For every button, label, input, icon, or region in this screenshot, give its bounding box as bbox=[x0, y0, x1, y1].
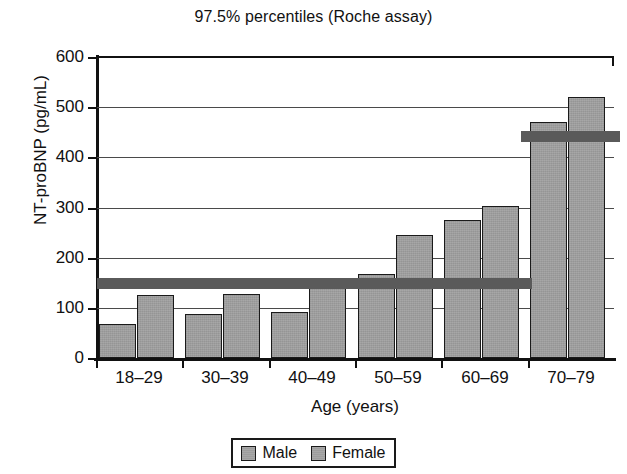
y-tick-label-300: 300 bbox=[0, 199, 84, 216]
y-tick-mark-200 bbox=[88, 258, 97, 260]
y-tick-label-400: 400 bbox=[0, 148, 84, 165]
legend-entry-male: Male bbox=[241, 445, 297, 461]
y-tick-mark-300 bbox=[88, 208, 97, 210]
x-tick-label-18-29: 18–29 bbox=[94, 369, 184, 386]
legend-label-male: Male bbox=[262, 445, 297, 461]
bar-male-18-29 bbox=[99, 324, 136, 358]
y-tick-label-0: 0 bbox=[0, 349, 84, 366]
x-tick-label-60-69: 60–69 bbox=[440, 369, 530, 386]
y-tick-label-500: 500 bbox=[0, 98, 84, 115]
y-tick-label-600: 600 bbox=[0, 48, 84, 65]
chart-figure: 97.5% percentiles (Roche assay) NT-proBN… bbox=[0, 0, 627, 474]
bar-female-18-29 bbox=[137, 295, 174, 358]
y-axis-tick-labels: 0100200300400500600 bbox=[0, 0, 84, 474]
x-tick-label-50-59: 50–59 bbox=[353, 369, 443, 386]
legend-swatch-male bbox=[241, 446, 256, 461]
y-tick-mark-400 bbox=[88, 157, 97, 159]
legend-entry-female: Female bbox=[311, 445, 385, 461]
x-tick-label-70-79: 70–79 bbox=[526, 369, 616, 386]
legend-swatch-female bbox=[311, 446, 326, 461]
bar-male-70-79 bbox=[530, 122, 567, 358]
x-tick-label-40-49: 40–49 bbox=[267, 369, 357, 386]
bar-male-60-69 bbox=[444, 220, 481, 358]
axis-top-line bbox=[96, 56, 614, 58]
x-tick-mark-4 bbox=[441, 359, 443, 368]
y-tick-mark-600 bbox=[88, 57, 97, 59]
x-tick-mark-3 bbox=[355, 359, 357, 368]
y-tick-mark-100 bbox=[88, 308, 97, 310]
gridline-y-500 bbox=[96, 107, 614, 108]
bar-female-50-59 bbox=[396, 235, 433, 358]
y-tick-mark-500 bbox=[88, 107, 97, 109]
reference-band-older bbox=[521, 131, 620, 142]
x-tick-mark-5 bbox=[528, 359, 530, 368]
bar-female-30-39 bbox=[223, 294, 260, 358]
x-tick-label-30-39: 30–39 bbox=[180, 369, 270, 386]
x-tick-mark-2 bbox=[269, 359, 271, 368]
chart-legend: MaleFemale bbox=[231, 438, 396, 468]
y-tick-label-100: 100 bbox=[0, 299, 84, 316]
x-axis-title: Age (years) bbox=[96, 397, 614, 417]
x-tick-mark-0 bbox=[96, 359, 98, 368]
chart-title: 97.5% percentiles (Roche assay) bbox=[0, 8, 627, 26]
legend-label-female: Female bbox=[332, 445, 385, 461]
bar-male-30-39 bbox=[185, 314, 222, 358]
reference-band-younger bbox=[97, 278, 532, 289]
axis-right-stub bbox=[612, 56, 614, 66]
bar-female-40-49 bbox=[309, 283, 346, 358]
bar-male-40-49 bbox=[271, 312, 308, 358]
x-tick-mark-1 bbox=[182, 359, 184, 368]
y-tick-label-200: 200 bbox=[0, 249, 84, 266]
